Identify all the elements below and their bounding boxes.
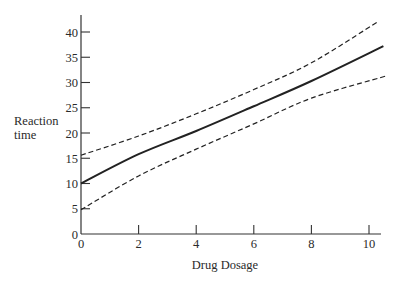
- x-axis-label: Drug Dosage: [192, 258, 259, 272]
- x-tick-label: 6: [251, 237, 257, 251]
- y-axis-label-line-1: Reaction: [14, 114, 58, 128]
- y-tick-label: 40: [66, 26, 79, 40]
- upper-confidence-band: [81, 22, 378, 155]
- x-tick-label: 10: [363, 237, 376, 251]
- y-axis-label: Reaction time: [14, 114, 58, 142]
- x-tick-label: 4: [193, 237, 200, 251]
- y-tick-label: 20: [66, 127, 79, 141]
- series-group: [81, 22, 386, 210]
- x-tick-label: 8: [308, 237, 314, 251]
- y-tick-label: 10: [66, 177, 79, 191]
- y-axis-label-line-2: time: [14, 128, 58, 142]
- y-tick-label: 35: [66, 51, 79, 65]
- x-tick-label: 0: [78, 237, 84, 251]
- y-tick-label: 25: [66, 101, 79, 115]
- regression-line: [81, 46, 383, 183]
- y-tick-label: 5: [72, 202, 78, 216]
- lower-confidence-band: [81, 76, 386, 210]
- chart-canvas: 05101520253035400246810 Drug Dosage: [0, 0, 398, 281]
- x-tick-label: 2: [135, 237, 141, 251]
- y-tick-label: 15: [66, 152, 79, 166]
- y-tick-label: 30: [66, 76, 79, 90]
